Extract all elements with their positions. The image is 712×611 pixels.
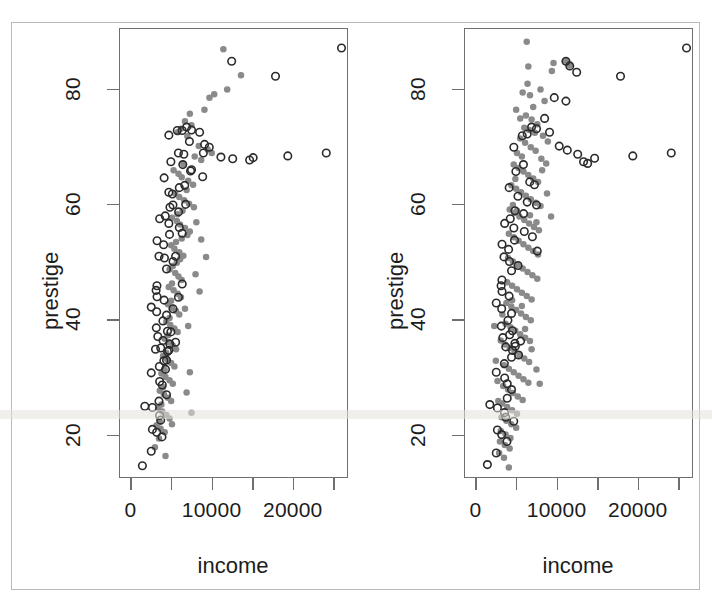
data-point xyxy=(533,366,540,373)
y-tick xyxy=(107,204,119,205)
data-point xyxy=(512,176,519,183)
data-point xyxy=(536,227,543,234)
data-point xyxy=(171,363,178,370)
data-point xyxy=(629,152,637,160)
y-tick-label: 60 xyxy=(61,192,85,216)
data-point xyxy=(141,403,149,411)
series-fitted xyxy=(491,38,573,470)
data-point xyxy=(537,86,544,93)
data-point xyxy=(495,398,502,405)
y-tick xyxy=(452,89,464,90)
data-point xyxy=(538,156,545,163)
points-layer-0 xyxy=(120,29,348,478)
data-point xyxy=(494,378,501,385)
data-point xyxy=(201,107,208,114)
y-tick xyxy=(452,204,464,205)
data-point xyxy=(220,46,227,53)
x-tick xyxy=(333,478,334,490)
data-point xyxy=(532,147,539,154)
data-point xyxy=(519,89,526,96)
data-point xyxy=(520,161,528,169)
series-observed xyxy=(139,44,346,469)
data-point xyxy=(148,448,156,456)
data-point xyxy=(187,111,194,118)
y-tick-label: 80 xyxy=(61,77,85,101)
series-fitted xyxy=(152,46,245,459)
x-tick-label: 20000 xyxy=(263,498,322,522)
data-point xyxy=(185,323,192,330)
data-point xyxy=(555,142,563,150)
data-point xyxy=(530,104,537,111)
data-point xyxy=(148,369,156,377)
data-point xyxy=(501,454,508,461)
x-tick-label: 10000 xyxy=(182,498,241,522)
data-point xyxy=(338,44,346,52)
x-axis-title: income xyxy=(543,553,614,579)
y-tick xyxy=(107,89,119,90)
data-point xyxy=(493,369,501,377)
data-point xyxy=(668,149,676,157)
figure-root: 0100002000020406080incomeprestige0100002… xyxy=(0,0,712,611)
data-point xyxy=(519,397,526,404)
data-point xyxy=(484,461,492,469)
x-tick-label: 0 xyxy=(124,498,136,522)
data-point xyxy=(508,267,516,275)
data-point xyxy=(683,44,691,52)
x-tick xyxy=(557,478,558,490)
data-point xyxy=(528,346,535,353)
x-tick xyxy=(212,478,213,490)
x-axis-title: income xyxy=(198,553,269,579)
data-point xyxy=(498,240,506,248)
data-point xyxy=(160,241,168,249)
data-point xyxy=(520,210,528,218)
y-tick-label: 20 xyxy=(61,423,85,447)
data-point xyxy=(574,150,582,158)
data-point xyxy=(196,129,204,137)
data-point xyxy=(525,379,531,386)
data-point xyxy=(186,138,194,146)
data-point xyxy=(173,346,180,353)
data-point xyxy=(154,333,162,341)
y-tick xyxy=(107,319,119,320)
data-point xyxy=(178,174,185,181)
data-point xyxy=(152,345,160,353)
data-point xyxy=(521,228,529,236)
data-point xyxy=(199,173,207,181)
y-tick-label: 20 xyxy=(406,423,430,447)
data-point xyxy=(228,58,236,65)
y-tick-label: 60 xyxy=(406,192,430,216)
data-point xyxy=(543,160,550,167)
x-tick xyxy=(252,478,253,490)
data-point xyxy=(513,107,520,114)
data-point xyxy=(206,94,213,101)
data-point xyxy=(510,144,518,152)
data-point xyxy=(217,153,225,161)
data-point xyxy=(193,219,200,226)
data-point xyxy=(533,219,540,226)
data-point xyxy=(524,81,531,88)
data-point xyxy=(528,116,535,123)
data-point xyxy=(551,94,559,102)
data-point xyxy=(514,411,521,418)
data-point xyxy=(528,296,535,303)
data-point xyxy=(198,157,205,164)
plot-area-1 xyxy=(464,28,693,478)
data-point xyxy=(523,112,530,119)
data-point xyxy=(169,421,176,428)
data-point xyxy=(526,359,533,366)
data-point xyxy=(284,152,292,160)
data-point xyxy=(272,73,280,81)
y-tick xyxy=(107,435,119,436)
data-point xyxy=(522,139,529,146)
data-point xyxy=(153,308,161,316)
data-point xyxy=(494,404,502,412)
data-point xyxy=(491,323,498,330)
data-point xyxy=(517,115,524,122)
data-point xyxy=(139,462,147,470)
data-point xyxy=(527,338,534,345)
y-axis-title: prestige xyxy=(383,252,409,330)
data-point xyxy=(190,182,197,189)
data-point xyxy=(514,193,522,201)
data-point xyxy=(541,98,548,105)
data-point xyxy=(166,415,173,422)
